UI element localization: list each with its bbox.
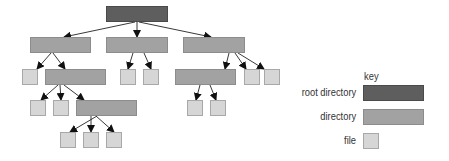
directory-node: [106, 37, 168, 53]
directory-node: [76, 100, 137, 116]
directory-node: [183, 37, 245, 53]
directory-node: [175, 69, 236, 85]
directory-node: [30, 37, 91, 53]
file-node: [22, 69, 38, 85]
legend-swatch-file: [363, 133, 379, 149]
legend-swatch-directory: [363, 109, 424, 125]
file-node: [210, 100, 226, 116]
legend-label-file: file: [344, 134, 356, 146]
file-node: [244, 69, 260, 85]
file-node: [60, 132, 76, 148]
root-directory-node: [106, 6, 168, 22]
file-node: [106, 132, 122, 148]
file-node: [53, 100, 69, 116]
file-node: [120, 69, 136, 85]
legend-label-root-directory: root directory: [301, 86, 356, 98]
directory-node: [45, 69, 106, 85]
legend-swatch-root-directory: [363, 85, 424, 101]
file-node: [30, 100, 46, 116]
file-node: [187, 100, 203, 116]
file-node: [264, 69, 280, 85]
file-node: [143, 69, 159, 85]
legend-title: key: [364, 70, 379, 82]
file-node: [83, 132, 99, 148]
legend-label-directory: directory: [320, 110, 356, 122]
